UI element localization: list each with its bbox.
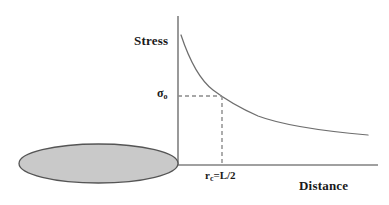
critical-radius-expression: =L/2 [213,169,235,181]
critical-radius-subscript: c [210,174,214,183]
inclusion-ellipse [19,144,178,183]
sigma-symbol: σ [157,86,164,100]
threshold-stress-label: σo [157,87,168,99]
plot-canvas [0,0,389,205]
sigma-subscript: o [164,92,168,101]
critical-radius-label: rc=L/2 [205,170,236,181]
x-axis-label: Distance [299,179,348,192]
stress-distance-figure: Stress σo rc=L/2 Distance [0,0,389,205]
stress-decay-curve [181,35,368,135]
y-axis-label: Stress [134,34,168,47]
